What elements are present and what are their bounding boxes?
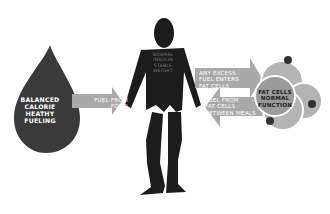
drop-line: FUELING	[10, 117, 70, 124]
arrow-food-label: FUEL FROM FOOD	[78, 97, 128, 110]
human-figure	[125, 18, 201, 195]
arrow-line: FOOD	[78, 103, 128, 109]
fat-cells-line: FUNCTION	[253, 102, 297, 108]
drop-line: CALORIE	[10, 103, 70, 110]
fat-cells-label: FAT CELLS NORMAL FUNCTION	[253, 89, 297, 108]
torso-line: WEIGHT	[143, 68, 183, 73]
arrow-excess-label: ANY EXCESS FUEL ENTERS FAT CELLS	[199, 70, 259, 89]
drop-line: BALANCED	[10, 96, 70, 103]
torso-label: NORMAL INSULIN STABLE WEIGHT	[143, 52, 183, 73]
arrow-line: BETWEEN MEALS	[205, 110, 275, 116]
arrow-line: FAT CELLS	[199, 83, 259, 89]
drop-line: HEATHY	[10, 110, 70, 117]
drop-label: BALANCED CALORIE HEATHY FUELING	[10, 96, 70, 125]
